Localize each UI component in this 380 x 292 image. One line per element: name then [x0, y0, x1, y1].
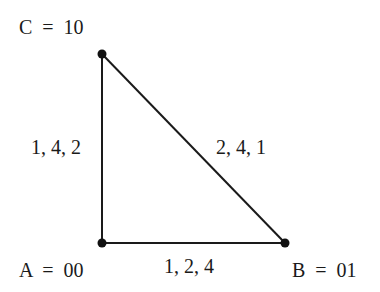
vertex-b — [281, 239, 290, 248]
edge-label-a-c: 1, 4, 2 — [31, 137, 81, 157]
vertex-label-b: B = 01 — [292, 260, 357, 280]
vertex-c — [98, 50, 107, 59]
vertex-label-a: A = 00 — [19, 260, 84, 280]
vertex-label-c: C = 10 — [19, 17, 84, 37]
vertex-a — [98, 239, 107, 248]
edge-label-a-b: 1, 2, 4 — [164, 256, 214, 276]
edge-label-c-b: 2, 4, 1 — [216, 137, 266, 157]
